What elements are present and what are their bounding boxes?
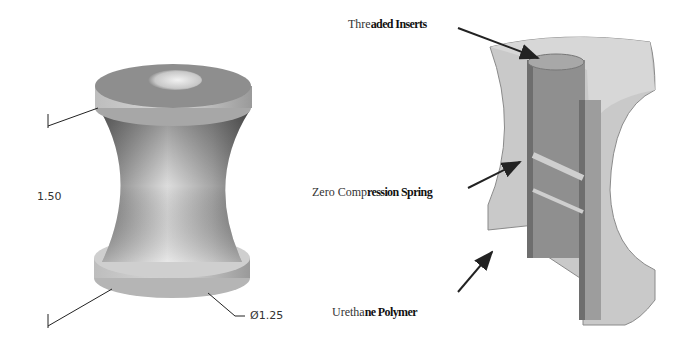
- callout-urethane-polymer: Urethane Polymer: [332, 305, 417, 320]
- center-bore: [148, 70, 202, 90]
- callout-zero-compression-spring: Zero Compression Spring: [312, 185, 432, 200]
- spool-section-cutaway: [458, 28, 655, 325]
- dimension-extension-bottom: [48, 289, 112, 326]
- callout-threaded-inserts: Threaded Inserts: [348, 17, 426, 32]
- spool-isometric-view: [48, 64, 252, 328]
- diagram-canvas: [0, 0, 691, 349]
- height-dimension: 1.50: [37, 190, 62, 203]
- arrow-urethane: [458, 252, 492, 292]
- dimension-extension-top: [48, 108, 98, 126]
- diameter-dimension: Ø1.25: [250, 309, 283, 322]
- diameter-leader: [208, 293, 245, 316]
